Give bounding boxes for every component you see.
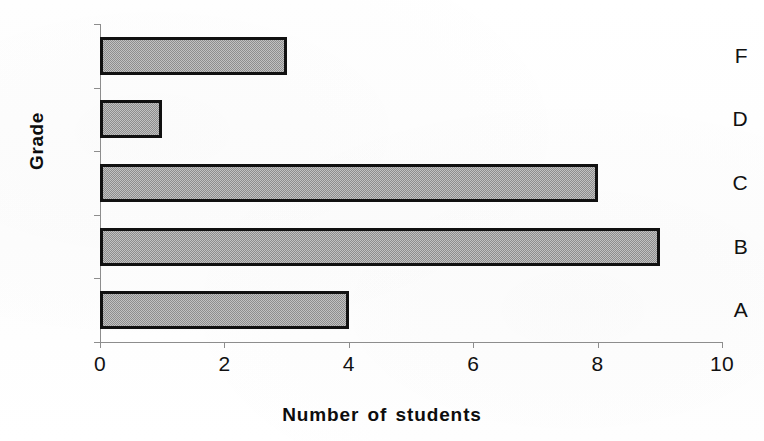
y-axis-title: Grade xyxy=(26,112,48,170)
x-axis-title: Number of students xyxy=(0,404,764,426)
bar-d xyxy=(100,100,162,138)
y-tick-label-b: B xyxy=(708,235,748,259)
y-tick-mark xyxy=(94,151,100,152)
x-tick-label-6: 6 xyxy=(467,352,479,376)
x-tick-label-2: 2 xyxy=(218,352,230,376)
y-tick-mark xyxy=(94,24,100,25)
y-tick-label-a: A xyxy=(708,298,748,322)
y-tick-mark xyxy=(94,88,100,89)
x-tick-mark xyxy=(473,342,474,348)
plot-area xyxy=(100,24,722,342)
x-tick-mark xyxy=(349,342,350,348)
y-tick-mark xyxy=(94,278,100,279)
bar-b xyxy=(100,228,660,266)
x-tick-mark xyxy=(722,342,723,348)
x-tick-label-10: 10 xyxy=(710,352,734,376)
x-tick-mark xyxy=(598,342,599,348)
x-axis-line xyxy=(100,342,722,343)
bar-c xyxy=(100,164,598,202)
x-tick-label-8: 8 xyxy=(592,352,604,376)
bar-chart-figure: Grade FDCBA 0246810 Number of students xyxy=(0,0,764,441)
x-tick-label-0: 0 xyxy=(94,352,106,376)
x-tick-mark xyxy=(224,342,225,348)
y-tick-label-d: D xyxy=(708,107,748,131)
y-tick-mark xyxy=(94,215,100,216)
x-tick-label-4: 4 xyxy=(343,352,355,376)
y-tick-label-c: C xyxy=(708,171,748,195)
bar-f xyxy=(100,37,287,75)
bar-a xyxy=(100,291,349,329)
x-tick-mark xyxy=(100,342,101,348)
y-tick-label-f: F xyxy=(708,44,748,68)
